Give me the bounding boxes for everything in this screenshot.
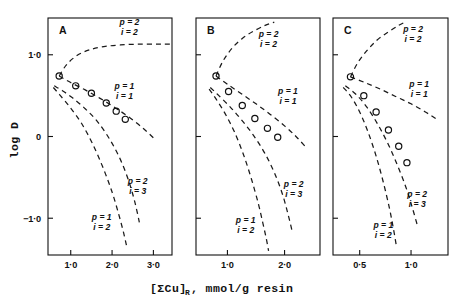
x-tick-label: 2·0	[278, 260, 291, 270]
data-point	[404, 160, 410, 166]
curves	[209, 22, 305, 251]
data-point	[122, 116, 128, 122]
curve-label-i: i = 2	[375, 230, 392, 240]
data-point	[264, 125, 270, 131]
curve-label-i: i = 1	[116, 91, 133, 101]
y-tick-label: −1·0	[23, 214, 41, 224]
curve-label-i: i = 1	[280, 96, 297, 106]
x-tick-label: 1·0	[405, 260, 418, 270]
model-curve	[345, 86, 417, 225]
data-point	[347, 74, 353, 80]
curve-label-p: p = 1	[114, 81, 135, 91]
curve-label-i: i = 2	[121, 27, 138, 37]
curve-label-i: i = 3	[129, 186, 146, 196]
model-curve	[210, 87, 292, 232]
panel-letter: A	[59, 24, 67, 36]
curve-label-i: i = 2	[237, 225, 254, 235]
curve-label-i: i = 2	[93, 222, 110, 232]
data-points	[347, 74, 410, 166]
curve-label-p: p = 2	[402, 24, 423, 34]
y-tick-label: 0	[36, 132, 41, 142]
figure-container: A1·00−1·01·02·03·0p = 2i = 2p = 1i = 1p …	[0, 0, 457, 304]
curve-label-p: p = 1	[277, 86, 298, 96]
x-tick-label: 3·0	[147, 260, 160, 270]
data-point	[275, 134, 281, 140]
x-axis-label-main: [ΣCu]	[150, 282, 187, 295]
x-tick-label: 1·0	[221, 260, 234, 270]
x-tick-label: 2·0	[106, 260, 119, 270]
curves	[343, 21, 435, 247]
model-curve	[53, 87, 127, 247]
model-curve	[59, 76, 155, 140]
x-tick-label: 1·0	[64, 260, 77, 270]
panel-a: A1·00−1·01·02·03·0p = 2i = 2p = 1i = 1p …	[23, 17, 172, 270]
data-point	[239, 102, 245, 108]
data-point	[252, 115, 258, 121]
model-curve	[350, 21, 406, 77]
data-point	[385, 127, 391, 133]
x-axis-label-rest: , mmol/g resin	[191, 282, 293, 295]
panel-letter: B	[207, 24, 215, 36]
data-point	[225, 88, 231, 94]
data-point	[396, 143, 402, 149]
x-axis-label: [ΣCu] R , mmol/g resin	[150, 282, 293, 297]
panel-b: B1·02·0p = 2i = 2p = 1i = 1p = 2i = 3p =…	[196, 18, 320, 270]
curve-label-i: i = 1	[411, 89, 428, 99]
curve-label-p: p = 1	[372, 220, 393, 230]
data-points	[213, 73, 281, 140]
panel-frame	[196, 18, 320, 255]
curve-label-p: p = 2	[406, 189, 427, 199]
model-curve	[54, 86, 139, 222]
curve-label-i: i = 2	[260, 39, 277, 49]
model-curve	[59, 44, 170, 76]
y-axis-label: log D	[8, 121, 21, 158]
curve-label-i: i = 2	[405, 34, 422, 44]
data-point	[361, 93, 367, 99]
curve-label-p: p = 1	[91, 212, 112, 222]
curve-label-i: i = 3	[409, 199, 426, 209]
data-point	[373, 109, 379, 115]
curve-label-p: p = 2	[119, 17, 140, 27]
curve-label-p: p = 1	[235, 215, 256, 225]
curve-label-p: p = 1	[408, 79, 429, 89]
y-tick-label: 1·0	[28, 50, 41, 60]
panel-group: A1·00−1·01·02·03·0p = 2i = 2p = 1i = 1p …	[23, 17, 448, 270]
x-tick-label: 0·5	[353, 260, 366, 270]
curve-label-p: p = 2	[283, 179, 304, 189]
panel-letter: C	[344, 24, 352, 36]
curve-label-i: i = 3	[285, 189, 302, 199]
x-axis-label-subscript: R	[185, 288, 190, 297]
y-axis-label-text: log D	[8, 121, 21, 158]
curve-label-p: p = 2	[127, 176, 148, 186]
panel-c: C0·51·0p = 2i = 2p = 1i = 1p = 2i = 3p =…	[333, 18, 448, 270]
curve-label-p: p = 2	[258, 29, 279, 39]
multi-panel-scatter-chart: A1·00−1·01·02·03·0p = 2i = 2p = 1i = 1p …	[0, 0, 457, 304]
